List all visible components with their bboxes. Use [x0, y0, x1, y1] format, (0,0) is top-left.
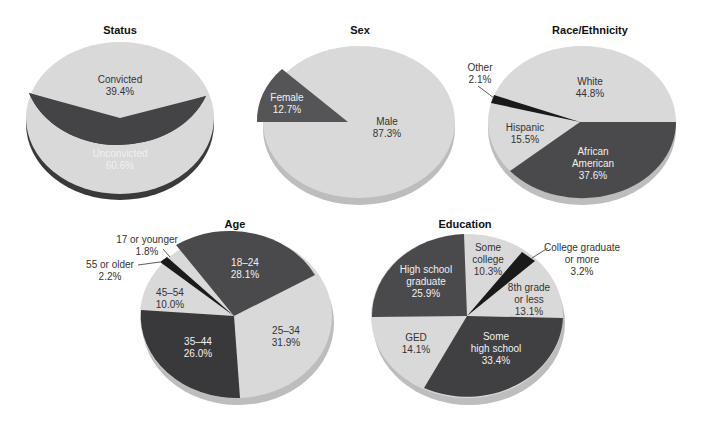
race-hispanic-label: Hispanic15.5% — [500, 122, 550, 146]
age-55-or-older-label: 55 or older2.2% — [80, 259, 140, 283]
sex-female-label: Female12.7% — [262, 92, 312, 116]
education-college-graduate-label: College graduateor more3.2% — [540, 242, 624, 278]
education-some-high-school-label: Somehigh school33.4% — [466, 331, 526, 367]
education-ged-label: GED14.1% — [396, 332, 436, 356]
age-35-44-label: 35–4426.0% — [178, 336, 218, 360]
status-unconvicted-label: Unconvicted60.6% — [84, 148, 156, 172]
education-pie-chart: Education College graduateor more3.2% So… — [360, 205, 712, 423]
status-pie-graphic — [0, 0, 240, 210]
race-african-american-label: AfricanAmerican37.6% — [568, 146, 618, 182]
status-pie-chart: Status Convicted39.4% Unconvicted60.6% — [0, 0, 240, 210]
education-8th-grade-label: 8th gradeor less13.1% — [504, 282, 554, 318]
sex-male-label: Male87.3% — [362, 116, 412, 140]
race-white-label: White44.8% — [568, 76, 612, 100]
status-convicted-label: Convicted39.4% — [88, 74, 152, 98]
education-high-school-graduate-label: High schoolgraduate25.9% — [396, 264, 456, 300]
education-some-college-label: Somecollege10.3% — [468, 242, 508, 278]
age-45-54-label: 45–5410.0% — [150, 287, 190, 311]
sex-pie-chart: Sex Female12.7% Male87.3% — [240, 0, 480, 210]
race-pie-chart: Race/Ethnicity Other2.1% White44.8% Hisp… — [470, 0, 712, 210]
race-other-label: Other2.1% — [460, 62, 500, 86]
age-25-34-label: 25–3431.9% — [266, 325, 306, 349]
age-pie-chart: Age 17 or younger1.8% 55 or older2.2% 45… — [0, 205, 360, 423]
age-18-24-label: 18–2428.1% — [225, 257, 265, 281]
age-17-or-younger-label: 17 or younger1.8% — [112, 234, 182, 258]
